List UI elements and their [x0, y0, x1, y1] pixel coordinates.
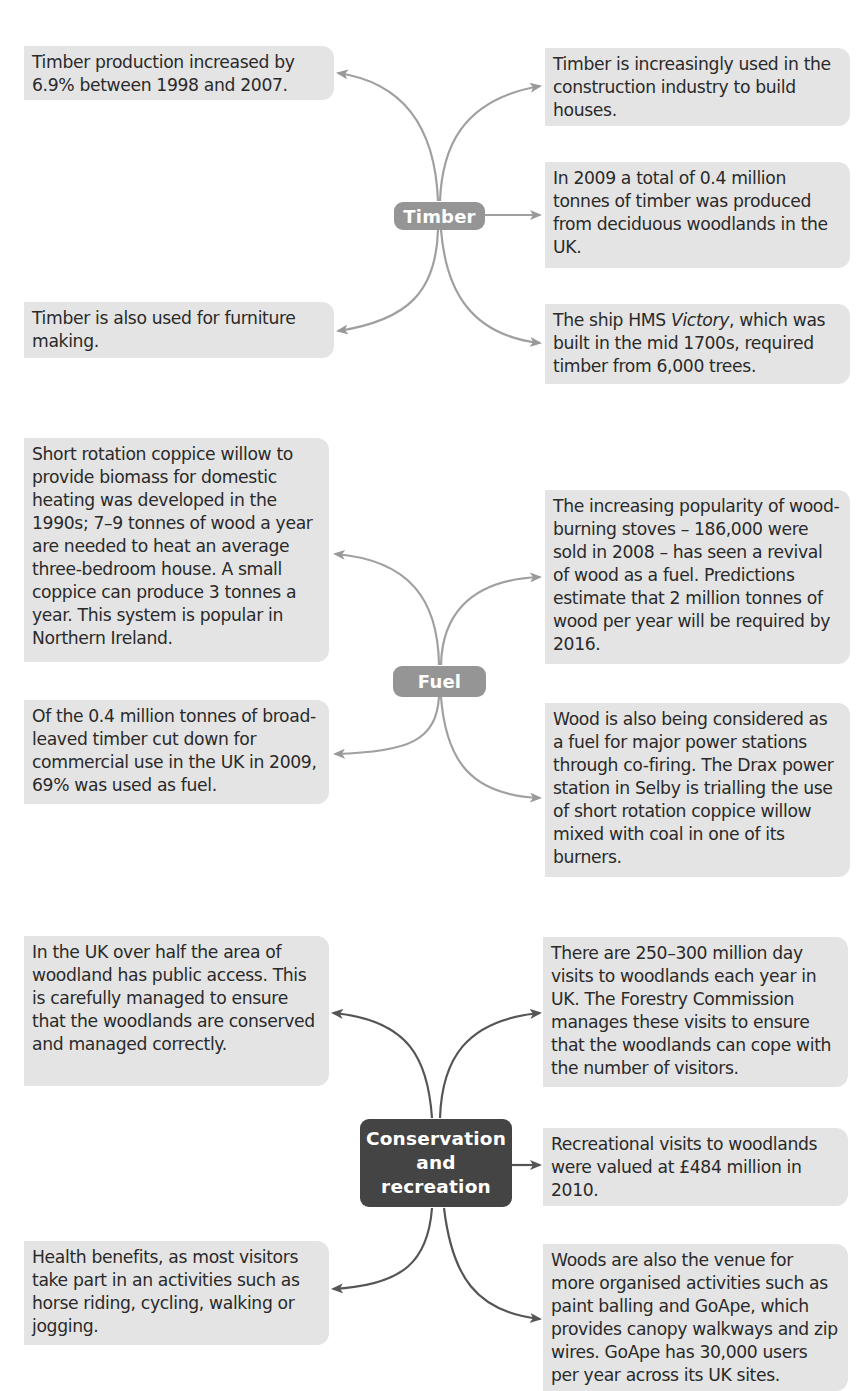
conservation-fact-recreational-value: Recreational visits to woodlands were va…: [543, 1128, 848, 1206]
fact-text: Timber is increasingly used in the const…: [553, 54, 831, 120]
arrow-timber-left-bottom: [338, 230, 438, 331]
fact-text: The increasing popularity of wood-burnin…: [553, 496, 839, 654]
arrow-fuel-right-bottom: [441, 697, 540, 798]
fact-text: In 2009 a total of 0.4 million tonnes of…: [553, 168, 828, 257]
conservation-fact-public-access: In the UK over half the area of woodland…: [24, 936, 329, 1086]
conservation-fact-health-benefits: Health benefits, as most visitors take p…: [24, 1241, 329, 1345]
hub-label-line2: and: [416, 1151, 456, 1175]
arrow-fuel-left-top: [335, 554, 439, 665]
timber-fact-construction: Timber is increasingly used in the const…: [545, 48, 850, 126]
arrow-timber-right-bottom: [441, 230, 540, 343]
fuel-fact-coppice-willow: Short rotation coppice willow to provide…: [24, 438, 329, 662]
arrow-cons-right-top: [440, 1013, 540, 1118]
arrow-cons-right-bottom: [444, 1208, 540, 1319]
arrow-timber-left-top: [338, 73, 438, 201]
arrow-cons-left-bottom: [333, 1208, 432, 1289]
hub-label: Fuel: [418, 671, 461, 692]
fact-text: Short rotation coppice willow to provide…: [32, 444, 313, 648]
fact-text: Timber is also used for furniture making…: [32, 308, 296, 351]
timber-fact-deciduous: In 2009 a total of 0.4 million tonnes of…: [545, 162, 850, 268]
conservation-fact-goape: Woods are also the venue for more organi…: [543, 1244, 848, 1391]
fact-text: Wood is also being considered as a fuel …: [553, 709, 833, 867]
fuel-fact-broadleaved: Of the 0.4 million tonnes of broad-leave…: [24, 700, 329, 804]
arrow-fuel-left-bottom: [335, 697, 439, 754]
fact-text: Of the 0.4 million tonnes of broad-leave…: [32, 706, 317, 795]
conservation-fact-day-visits: There are 250–300 million day visits to …: [543, 937, 848, 1087]
fact-text: There are 250–300 million day visits to …: [551, 943, 831, 1078]
hub-conservation-recreation: Conservation and recreation: [360, 1119, 512, 1207]
hub-label-line3: recreation: [381, 1175, 491, 1199]
fuel-fact-drax-cofiring: Wood is also being considered as a fuel …: [545, 703, 850, 877]
arrow-cons-left-top: [333, 1013, 432, 1118]
timber-fact-production: Timber production increased by 6.9% betw…: [24, 46, 334, 100]
fact-text: In the UK over half the area of woodland…: [32, 942, 315, 1054]
hub-timber: Timber: [394, 202, 485, 230]
hub-label: Timber: [403, 206, 475, 227]
timber-fact-furniture: Timber is also used for furniture making…: [24, 302, 334, 358]
fact-text: Recreational visits to woodlands were va…: [551, 1134, 817, 1200]
fuel-fact-wood-stoves: The increasing popularity of wood-burnin…: [545, 490, 850, 664]
arrow-timber-right-top: [440, 86, 540, 201]
ship-name: Victory: [671, 310, 729, 330]
fact-text: Timber production increased by 6.9% betw…: [32, 52, 295, 95]
fact-text-pre: The ship HMS: [553, 310, 671, 330]
hub-fuel: Fuel: [393, 666, 486, 697]
fact-text: Woods are also the venue for more organi…: [551, 1250, 838, 1385]
fact-text: Health benefits, as most visitors take p…: [32, 1247, 300, 1336]
timber-fact-hms-victory: The ship HMS Victory, which was built in…: [545, 304, 850, 384]
hub-label-line1: Conservation: [366, 1127, 506, 1151]
arrow-fuel-right-top: [441, 577, 540, 665]
